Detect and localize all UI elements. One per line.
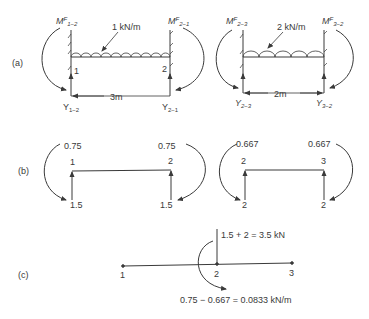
span-label: 3m bbox=[110, 92, 123, 102]
distributed-load bbox=[243, 51, 324, 57]
moment-arc-left bbox=[42, 28, 66, 90]
moment-label: MF2−1 bbox=[168, 16, 189, 27]
node-label: 2 bbox=[168, 156, 173, 166]
moment-label: MF1−2 bbox=[56, 16, 78, 27]
panel-a-right-beam bbox=[216, 30, 353, 93]
reaction-label: Y3−2 bbox=[316, 98, 333, 109]
reaction-value: 1.5 bbox=[70, 200, 83, 210]
span-label: 2m bbox=[274, 89, 287, 99]
reaction-label: Y1−2 bbox=[63, 102, 80, 113]
node-label: 2 bbox=[162, 64, 167, 74]
moment-label: MF2−3 bbox=[226, 16, 248, 27]
load-label: 1 kN/m bbox=[112, 22, 141, 32]
panel-a-label: (a) bbox=[12, 58, 23, 68]
reaction-value: 2 bbox=[321, 200, 326, 210]
load-label: 2 kN/m bbox=[277, 22, 306, 32]
reaction-value: 2 bbox=[242, 200, 247, 210]
force-equation: 1.5 + 2 = 3.5 kN bbox=[221, 230, 285, 240]
node-label: 2 bbox=[214, 269, 219, 279]
moment-value: 0.667 bbox=[236, 139, 259, 149]
panel-a-left-beam bbox=[42, 28, 204, 96]
reaction-value: 1.5 bbox=[160, 200, 173, 210]
moment-label: MF3−2 bbox=[322, 16, 344, 27]
node-label: 3 bbox=[321, 156, 326, 166]
node-label: 1 bbox=[120, 270, 125, 280]
panel-b-left-beam bbox=[44, 144, 205, 200]
panel-b-label: (b) bbox=[18, 166, 29, 176]
node-label: 1 bbox=[74, 66, 79, 76]
node-label: 1 bbox=[70, 157, 75, 167]
node-label: 2 bbox=[241, 156, 246, 166]
reaction-label: Y2−1 bbox=[162, 102, 179, 113]
moment-arc-right bbox=[176, 28, 204, 90]
moment-value: 0.75 bbox=[158, 141, 176, 151]
reaction-label: Y2−3 bbox=[235, 98, 252, 109]
panel-c-label: (c) bbox=[18, 270, 29, 280]
node-label: 3 bbox=[289, 268, 294, 278]
moment-equation: 0.75 − 0.667 = 0.0833 kN/m bbox=[180, 295, 292, 305]
moment-value: 0.667 bbox=[308, 139, 331, 149]
moment-value: 0.75 bbox=[64, 141, 82, 151]
beam-analysis-diagram: (a) 1 kN/m 3m 1 2 MF1−2 MF2−1 Y1−2 Y2−1 bbox=[0, 0, 369, 319]
panel-b-right-beam bbox=[219, 144, 352, 200]
